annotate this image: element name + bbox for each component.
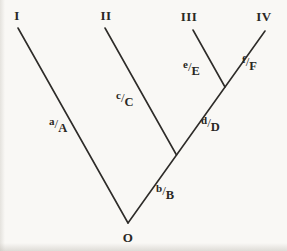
tip-label-I: I bbox=[14, 9, 20, 22]
branch-label-c: c/C bbox=[116, 89, 134, 105]
cladogram-figure: I II III IV O a/A b/B c/C d/D e/E f/F bbox=[0, 0, 287, 251]
branch-label-d-char: d bbox=[201, 114, 207, 126]
branch-label-f: f/F bbox=[242, 53, 257, 69]
branch-label-a-char: a bbox=[49, 115, 55, 127]
branch-label-a-state: A bbox=[58, 121, 67, 135]
branch-a-line bbox=[18, 28, 128, 223]
branch-label-e-separator: / bbox=[188, 59, 192, 74]
branch-label-b-state: B bbox=[166, 188, 174, 202]
branch-label-c-state: C bbox=[125, 95, 134, 109]
branch-label-d-state: D bbox=[211, 120, 220, 134]
branch-label-e: e/E bbox=[183, 58, 200, 74]
tip-label-II: II bbox=[100, 9, 111, 22]
tip-label-IV: IV bbox=[256, 10, 271, 23]
tip-label-III: III bbox=[181, 10, 198, 23]
branch-label-e-char: e bbox=[183, 58, 188, 70]
branch-label-c-separator: / bbox=[121, 90, 125, 105]
root-label: O bbox=[123, 231, 134, 244]
branch-label-f-state: F bbox=[249, 59, 257, 73]
tree-canvas bbox=[0, 0, 287, 251]
branch-label-b: b/B bbox=[156, 182, 174, 198]
branch-label-e-state: E bbox=[192, 64, 200, 78]
branch-label-a: a/A bbox=[49, 115, 67, 131]
branch-label-c-char: c bbox=[116, 89, 121, 101]
branch-label-b-char: b bbox=[156, 182, 162, 194]
branch-label-d: d/D bbox=[201, 114, 220, 130]
branch-label-f-char: f bbox=[242, 53, 246, 65]
